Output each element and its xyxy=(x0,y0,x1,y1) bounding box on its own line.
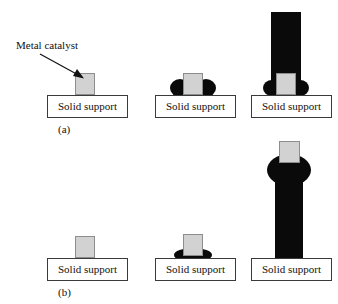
catalyst-particle xyxy=(75,236,95,258)
solid-support-box: Solid support xyxy=(47,258,128,281)
solid-support-box: Solid support xyxy=(251,95,332,118)
metal-catalyst-label: Metal catalyst xyxy=(16,40,78,51)
solid-support-box: Solid support xyxy=(155,95,236,118)
solid-support-box: Solid support xyxy=(251,258,332,281)
solid-support-box: Solid support xyxy=(47,95,128,118)
catalyst-particle xyxy=(183,73,203,95)
nanotube-growth-figure: Metal catalyst Solid support Solid suppo… xyxy=(0,0,338,304)
arrow-pointing-down-right-icon xyxy=(38,52,94,84)
catalyst-particle xyxy=(279,141,300,163)
catalyst-particle xyxy=(276,73,296,95)
row-caption-a: (a) xyxy=(58,124,70,135)
catalyst-particle xyxy=(183,234,203,256)
solid-support-box: Solid support xyxy=(155,258,236,281)
row-caption-b: (b) xyxy=(58,287,71,298)
